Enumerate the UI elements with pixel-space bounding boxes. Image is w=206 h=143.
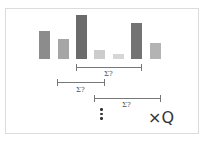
sum-query-label: Σ?: [104, 70, 113, 78]
query-range-bracket: [57, 82, 105, 83]
ellipsis-vertical-icon: [100, 108, 103, 122]
query-count-label: ×Q: [148, 108, 174, 127]
query-range-bracket: [76, 67, 142, 68]
array-bar: [58, 39, 69, 59]
query-range-bracket: [94, 98, 161, 99]
array-bar: [131, 23, 142, 59]
array-bar: [39, 31, 50, 59]
sum-query-label: Σ?: [122, 101, 131, 109]
sum-query-label: Σ?: [76, 86, 85, 94]
array-bar: [150, 43, 161, 59]
array-bar: [76, 15, 87, 59]
array-bar: [94, 50, 105, 59]
array-bar: [113, 54, 124, 59]
